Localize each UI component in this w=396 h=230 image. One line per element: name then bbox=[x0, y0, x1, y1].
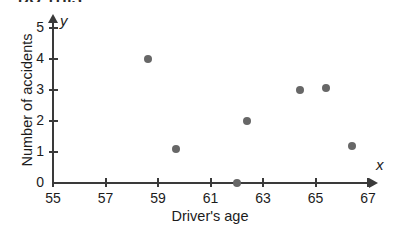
data-point bbox=[172, 145, 180, 153]
x-tick-55 bbox=[52, 178, 54, 187]
y-tick-3 bbox=[49, 89, 58, 91]
x-tick-label-65: 65 bbox=[299, 190, 333, 206]
x-tick-61 bbox=[210, 178, 212, 187]
scatter-plot-figure: DO THIS 55575961636567 012345 x y Number… bbox=[0, 0, 396, 230]
y-axis-title: Number of accidents bbox=[19, 15, 35, 185]
data-point bbox=[243, 117, 251, 125]
x-tick-label-55: 55 bbox=[36, 190, 70, 206]
x-tick-label-61: 61 bbox=[194, 190, 228, 206]
x-tick-57 bbox=[105, 178, 107, 187]
x-tick-label-57: 57 bbox=[89, 190, 123, 206]
x-tick-label-59: 59 bbox=[141, 190, 175, 206]
y-axis-arrow-icon bbox=[48, 14, 58, 23]
y-axis-variable-label: y bbox=[60, 12, 68, 29]
x-axis-variable-label: x bbox=[376, 156, 384, 173]
data-point bbox=[348, 142, 356, 150]
x-axis-arrow-icon bbox=[369, 178, 378, 188]
x-tick-67 bbox=[367, 178, 369, 187]
x-tick-label-67: 67 bbox=[351, 190, 385, 206]
y-axis-line bbox=[52, 22, 54, 183]
data-point bbox=[296, 86, 304, 94]
x-axis-line bbox=[53, 182, 371, 184]
x-tick-63 bbox=[262, 178, 264, 187]
plot-area: 55575961636567 012345 x y Number of acci… bbox=[0, 0, 396, 230]
x-tick-59 bbox=[157, 178, 159, 187]
y-tick-1 bbox=[49, 151, 58, 153]
y-tick-2 bbox=[49, 120, 58, 122]
data-point bbox=[322, 84, 330, 92]
y-tick-5 bbox=[49, 27, 58, 29]
x-tick-label-63: 63 bbox=[246, 190, 280, 206]
y-tick-4 bbox=[49, 58, 58, 60]
x-axis-title: Driver's age bbox=[120, 208, 300, 224]
data-point bbox=[144, 55, 152, 63]
data-point bbox=[233, 179, 241, 187]
x-tick-65 bbox=[315, 178, 317, 187]
